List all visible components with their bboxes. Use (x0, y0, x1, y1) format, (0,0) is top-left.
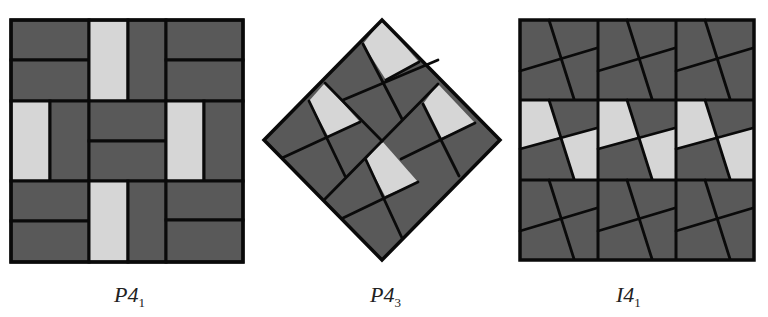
p41-label-subscript: 1 (138, 295, 145, 310)
i41-label-main: I4 (616, 282, 634, 307)
p43-label: P43 (370, 282, 401, 311)
i41-label-subscript: 1 (634, 295, 641, 310)
panel-p43: P43 (256, 0, 512, 317)
p41-tiling-diagram (0, 0, 256, 270)
panel-i41: I41 (512, 0, 768, 317)
i41-tiling-diagram (512, 0, 768, 270)
i41-label: I41 (616, 282, 641, 311)
p43-tiling-diagram (256, 0, 512, 270)
panel-p41: P41 (0, 0, 256, 317)
p41-label-main: P4 (114, 282, 138, 307)
p43-label-main: P4 (370, 282, 394, 307)
p43-label-subscript: 3 (394, 295, 401, 310)
p41-label: P41 (114, 282, 145, 311)
